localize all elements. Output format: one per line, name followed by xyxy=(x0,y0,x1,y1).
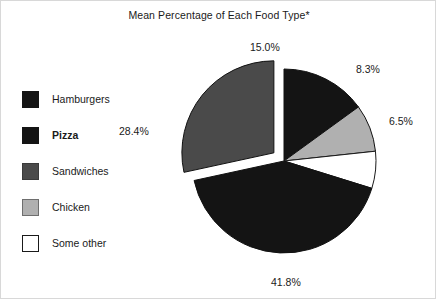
value-label-sandwiches: 28.4% xyxy=(119,125,149,137)
chart-figure: Mean Percentage of Each Food Type* Hambu… xyxy=(0,0,436,299)
pie-slice-sandwiches xyxy=(182,61,274,173)
pie-slice-group xyxy=(182,61,376,253)
value-label-chicken: 8.3% xyxy=(356,63,380,75)
value-label-some-other: 6.5% xyxy=(389,115,413,127)
pie-chart xyxy=(1,1,436,299)
value-label-pizza: 41.8% xyxy=(271,276,301,288)
value-label-hamburgers: 15.0% xyxy=(250,41,280,53)
